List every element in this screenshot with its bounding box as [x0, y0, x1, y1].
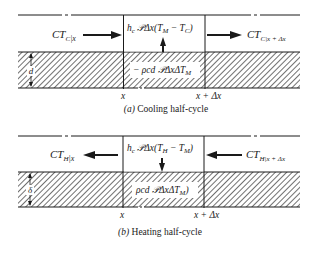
x-plus-dx-label: x + Δx — [195, 91, 222, 101]
flow-arrow-right-icon — [83, 31, 122, 39]
thickness-label: d — [29, 66, 34, 76]
left-flux-label: CTC|x — [52, 28, 76, 43]
x-label: x — [120, 91, 126, 101]
x-label: x — [119, 210, 125, 220]
left-flux-label: CTH|x — [50, 148, 75, 163]
caption-heating: (b) Heating half-cycle — [118, 227, 202, 238]
panel-heating: δ CTH|x CTH|x + Δx hc 𝒫Δx(TH − TM) ρcd 𝒫… — [18, 136, 300, 238]
flow-arrow-right-out-icon — [207, 31, 242, 39]
caption-cooling: (a) Cooling half-cycle — [124, 104, 208, 115]
regenerator-diagram: d CTC|x CTC|x + Δx hc 𝒫Δx(TM − TC) − ρcd… — [0, 0, 316, 255]
right-flux-label: CTC|x + Δx — [247, 28, 287, 43]
flow-arrow-left-out-icon — [83, 151, 118, 159]
flow-arrow-left-in-icon — [206, 151, 242, 159]
x-plus-dx-label: x + Δx — [193, 210, 220, 220]
right-flux-label: CTH|x + Δx — [246, 148, 286, 163]
panel-cooling: d CTC|x CTC|x + Δx hc 𝒫Δx(TM − TC) − ρcd… — [18, 15, 300, 115]
